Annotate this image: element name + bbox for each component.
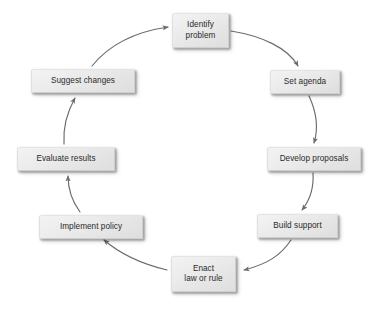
node-set-agenda[interactable]: Set agenda (270, 70, 340, 94)
node-develop-proposals[interactable]: Develop proposals (267, 147, 361, 171)
node-suggest-changes[interactable]: Suggest changes (31, 69, 135, 93)
edge-evaluate-to-suggest (64, 98, 75, 144)
edge-implement-to-evaluate (68, 176, 80, 212)
policy-cycle-diagram: Identify problem Set agenda Develop prop… (0, 0, 389, 309)
edge-enact-to-implement (104, 240, 167, 270)
node-enact-law-or-rule[interactable]: Enact law or rule (171, 256, 236, 292)
node-evaluate-results[interactable]: Evaluate results (17, 147, 115, 171)
edge-identify-to-agenda (231, 31, 298, 66)
edge-develop-to-build (302, 173, 313, 210)
edge-agenda-to-develop (309, 96, 316, 143)
edge-suggest-to-identify (92, 27, 168, 66)
node-identify-problem[interactable]: Identify problem (172, 13, 229, 48)
node-build-support[interactable]: Build support (257, 214, 338, 238)
node-implement-policy[interactable]: Implement policy (39, 215, 143, 239)
edge-build-to-enact (244, 240, 291, 270)
